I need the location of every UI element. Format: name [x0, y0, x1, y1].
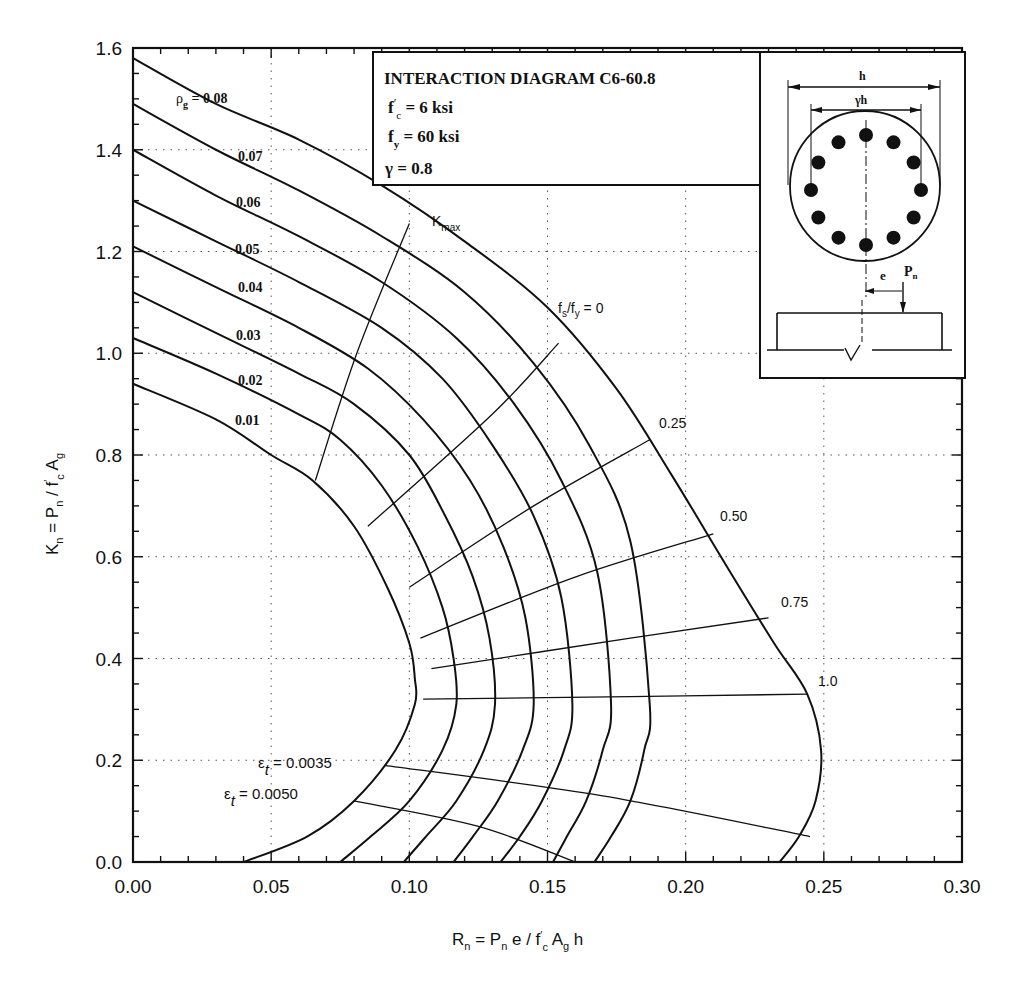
rebar-dot — [804, 183, 818, 197]
fs-fy-line — [423, 694, 807, 699]
rebar-dot — [811, 156, 825, 170]
sketch-gamma-h-label: γh — [854, 93, 868, 107]
rho-label-0.02: 0.02 — [238, 373, 263, 388]
info-box: INTERACTION DIAGRAM C6-60.8 f′c = 6 ksi … — [373, 52, 763, 185]
rebar-dot — [859, 128, 873, 142]
strain-0.0035-label: εt = 0.0035 — [258, 754, 332, 778]
rho-label-0.06: 0.06 — [236, 195, 261, 210]
x-axis-title: Rn = Pn e / f′c Ag h — [452, 929, 583, 953]
rebar-dot — [907, 211, 921, 225]
strain-0.0050-label: εt = 0.0050 — [224, 785, 298, 809]
x-tick-label: 0.10 — [391, 876, 428, 897]
rho-curve — [133, 246, 534, 862]
fs-fy-line — [409, 440, 649, 588]
fsfy-0.50-label: 0.50 — [720, 508, 747, 524]
y-tick-label: 0.8 — [96, 445, 122, 466]
fsfy-zero-label: fs/fy = 0 — [558, 300, 604, 319]
fs-fy-line — [368, 343, 559, 526]
fsfy-0.75-label: 0.75 — [781, 594, 808, 610]
rho-curve — [133, 150, 611, 862]
y-tick-label: 0.0 — [96, 852, 122, 873]
y-tick-label: 0.2 — [96, 750, 122, 771]
interaction-diagram-chart: 0.000.050.100.150.200.250.300.00.20.40.6… — [0, 0, 1018, 988]
rebar-dot — [832, 135, 846, 149]
rho-label-0.08: ρg = 0.08 — [176, 91, 227, 110]
rebar-dot — [907, 156, 921, 170]
x-tick-label: 0.30 — [944, 876, 981, 897]
column-section-sketch: h γh e Pn — [760, 52, 965, 378]
rebar-dot — [887, 231, 901, 245]
strain-lines — [354, 765, 810, 862]
y-axis-title: Kn = Pn / f′c Ag — [42, 453, 66, 555]
rebar-dot — [859, 238, 873, 252]
y-tick-label: 1.0 — [96, 343, 122, 364]
y-tick-label: 0.4 — [96, 649, 123, 670]
x-tick-label: 0.15 — [529, 876, 566, 897]
sketch-h-label: h — [859, 69, 866, 83]
x-tick-label: 0.20 — [667, 876, 704, 897]
rho-label-0.03: 0.03 — [236, 328, 261, 343]
chart-title: INTERACTION DIAGRAM C6-60.8 — [384, 69, 656, 88]
rebar-dot — [811, 211, 825, 225]
fs-fy-line — [431, 618, 768, 669]
fsfy-0.25-label: 0.25 — [659, 415, 686, 431]
rho-curve — [133, 338, 457, 862]
rho-label-0.04: 0.04 — [238, 280, 263, 295]
fs-fy-line — [420, 534, 713, 638]
param-gamma: γ = 0.8 — [384, 159, 432, 178]
rho-label-0.01: 0.01 — [235, 413, 260, 428]
y-tick-label: 1.4 — [96, 140, 123, 161]
sketch-e-label: e — [880, 268, 886, 283]
kmax-label: Kmax — [432, 213, 460, 233]
rho-label-0.05: 0.05 — [235, 242, 260, 257]
x-tick-label: 0.25 — [805, 876, 842, 897]
y-tick-label: 1.6 — [96, 38, 122, 59]
fs-fy-line — [315, 224, 409, 481]
fsfy-1.0-label: 1.0 — [818, 673, 838, 689]
y-tick-label: 0.6 — [96, 547, 122, 568]
rho-curve — [133, 201, 572, 862]
rebar-dot — [832, 231, 846, 245]
rho-label-0.07: 0.07 — [238, 149, 263, 164]
x-tick-label: 0.00 — [115, 876, 152, 897]
rebar-dot — [914, 183, 928, 197]
fs-fy-lines — [315, 224, 807, 700]
strain-line — [354, 801, 575, 862]
x-tick-label: 0.05 — [253, 876, 290, 897]
rebar-dot — [887, 135, 901, 149]
y-tick-label: 1.2 — [96, 242, 122, 263]
strain-line — [384, 765, 810, 836]
